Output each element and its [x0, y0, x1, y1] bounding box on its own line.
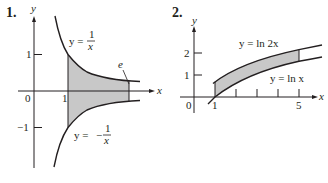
annotation-e: e: [118, 58, 123, 70]
y-axis-arrow-icon: [192, 26, 196, 32]
x-axis-arrow-icon: [149, 89, 155, 93]
origin-label-2: 0: [186, 99, 192, 111]
x-tick-label-1: 1: [62, 92, 68, 104]
figure-1: 1. e y x 0 1 1 −1 y = 1 x: [6, 2, 162, 168]
label-ln-2x: y = ln 2x: [239, 37, 279, 49]
figure-1-number: 1.: [6, 5, 17, 20]
svg-text:y =: y =: [74, 129, 88, 141]
x-tick-label-5: 5: [296, 99, 302, 111]
svg-text:1: 1: [105, 122, 111, 134]
y-axis-label-1: y: [30, 2, 36, 14]
figure-canvas: 1. e y x 0 1 1 −1 y = 1 x: [0, 0, 328, 183]
label-one-over-x: y = 1 x: [69, 28, 95, 52]
x-axis-label-2: x: [318, 90, 324, 102]
svg-text:x: x: [103, 134, 109, 146]
svg-text:−: −: [96, 129, 102, 141]
y-tick-label-1: 1: [26, 48, 32, 60]
x-tick-label-1-fig2: 1: [212, 99, 218, 111]
y-axis-arrow-icon: [32, 16, 36, 22]
origin-label-1: 0: [25, 92, 31, 104]
y-tick-label-1-fig2: 1: [184, 69, 190, 81]
svg-text:1: 1: [89, 28, 95, 40]
x-axis-arrow-icon: [312, 95, 318, 99]
y-tick-label-neg1: −1: [17, 121, 29, 133]
label-ln-x: y = ln x: [270, 72, 305, 84]
figure-2: 2. y x 0 2 1 1 5 y = ln 2x y = ln x: [172, 5, 324, 113]
y-axis-label-2: y: [191, 14, 197, 26]
svg-text:y =: y =: [69, 35, 83, 47]
label-neg-one-over-x: y = − 1 x: [74, 122, 111, 146]
svg-text:x: x: [87, 40, 93, 52]
figure-2-number: 2.: [172, 5, 183, 20]
y-tick-label-2: 2: [184, 47, 190, 59]
x-axis-label-1: x: [156, 84, 162, 96]
